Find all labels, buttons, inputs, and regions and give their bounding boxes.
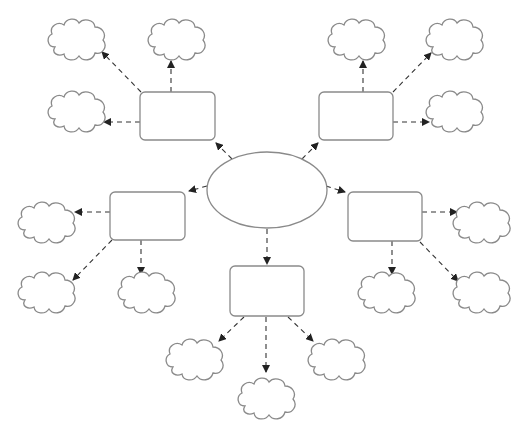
arrow-center-to-box-right xyxy=(326,186,345,192)
cloud-b-1-cloud-node[interactable] xyxy=(166,339,223,380)
cloud-tl-2-cloud-node[interactable] xyxy=(148,19,205,60)
cloud-tr-2-cloud-node[interactable] xyxy=(426,19,483,60)
arrow-center-to-box-top-left xyxy=(216,143,232,159)
arrow-box-bottom-to-cloud-b-3 xyxy=(288,317,313,341)
mind-map-canvas xyxy=(0,0,530,435)
cloud-r-3-cloud-node[interactable] xyxy=(453,272,510,313)
cloud-tr-3-cloud-node[interactable] xyxy=(426,91,483,132)
cloud-r-2-cloud-node[interactable] xyxy=(358,272,415,313)
cloud-tr-1-cloud-node[interactable] xyxy=(328,19,385,60)
box-right[interactable] xyxy=(348,192,422,241)
arrow-box-bottom-to-cloud-b-1 xyxy=(219,317,244,341)
arrow-box-left-to-cloud-l-2 xyxy=(73,240,112,280)
box-left[interactable] xyxy=(110,192,185,240)
cloud-b-3-cloud-node[interactable] xyxy=(308,339,365,380)
mind-map-diagram xyxy=(0,0,530,435)
central-ellipse-node[interactable] xyxy=(207,152,327,228)
arrow-box-top-left-to-cloud-tl-1 xyxy=(102,52,141,92)
cloud-r-1-cloud-node[interactable] xyxy=(453,202,510,243)
cloud-l-2-cloud-node[interactable] xyxy=(18,272,75,313)
cloud-l-1-cloud-node[interactable] xyxy=(18,202,75,243)
cloud-l-3-cloud-node[interactable] xyxy=(118,272,175,313)
arrow-box-right-to-cloud-r-3 xyxy=(420,242,458,281)
box-bottom[interactable] xyxy=(230,266,304,316)
arrow-box-top-right-to-cloud-tr-2 xyxy=(393,53,431,92)
box-top-left[interactable] xyxy=(140,92,215,140)
arrow-center-to-box-left xyxy=(189,186,207,191)
diagram-nodes xyxy=(18,19,510,419)
cloud-tl-1-cloud-node[interactable] xyxy=(48,19,105,60)
arrow-center-to-box-top-right xyxy=(302,143,318,159)
cloud-b-2-cloud-node[interactable] xyxy=(238,378,295,419)
cloud-tl-3-cloud-node[interactable] xyxy=(48,91,105,132)
box-top-right[interactable] xyxy=(319,92,393,140)
